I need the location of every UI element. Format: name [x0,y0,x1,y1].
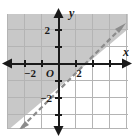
y-axis-bottom-arrow [54,126,64,136]
graph-canvas: −2 2 2 −2 O y x [0,0,136,139]
x-tick-label-2: 2 [76,67,82,79]
coordinate-plane-figure: −2 2 2 −2 O y x [0,0,136,139]
y-tick-label-neg2: −2 [40,92,52,104]
origin-label: O [46,67,54,79]
x-axis-label: x [122,45,129,59]
y-axis-label: y [67,6,75,20]
y-axis-top-arrow [54,8,64,18]
y-tick-label-2: 2 [45,24,51,36]
x-tick-label-neg2: −2 [24,67,36,79]
